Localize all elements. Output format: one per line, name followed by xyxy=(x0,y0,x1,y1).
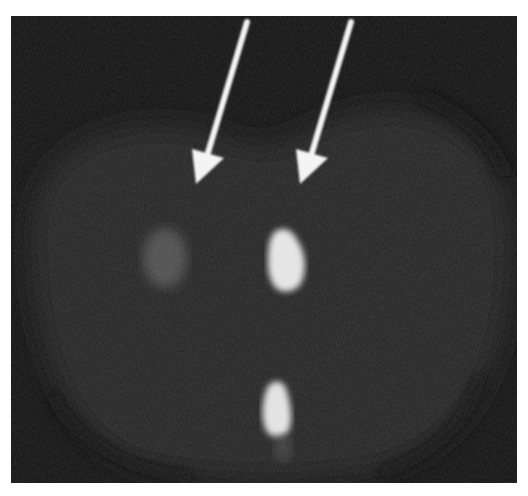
figure-canvas xyxy=(0,0,528,496)
scan-svg xyxy=(11,16,517,483)
scan-noise xyxy=(11,16,517,483)
ct-scan-image xyxy=(11,16,517,483)
